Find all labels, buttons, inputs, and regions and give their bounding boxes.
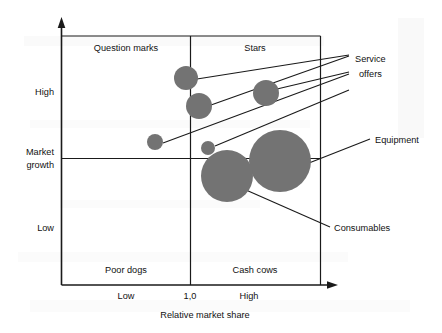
y-axis-title-line1: Market [26,147,55,157]
callout-label-service-offers-line2: offers [359,69,382,79]
y-tick-label-high: High [35,87,54,97]
bubble-equipment [249,130,311,192]
bubble-service-offer-5 [201,141,215,155]
bubble-consumables [201,150,253,202]
y-axis-title-line2: growth [26,160,54,170]
bcg-matrix-figure: Question marks Stars Poor dogs Cash cows… [0,0,442,333]
quadrant-label-cash-cows: Cash cows [233,265,278,275]
x-tick-label-high: High [240,291,259,301]
quadrant-label-stars: Stars [244,43,266,53]
bubble-service-offer-4 [147,134,163,150]
x-axis-title: Relative market share [160,310,249,320]
y-tick-label-low: Low [37,223,54,233]
quadrant-label-poor-dogs: Poor dogs [105,265,147,275]
x-tick-label-low: Low [118,291,135,301]
callout-label-equipment: Equipment [375,135,419,145]
x-tick-label-mid: 1,0 [184,291,197,301]
bubble-service-offer-2 [186,93,212,119]
bubble-service-offer-1 [174,66,198,90]
quadrant-label-question-marks: Question marks [94,43,159,53]
bubble-service-offer-3 [253,80,279,106]
bcg-matrix-svg: Question marks Stars Poor dogs Cash cows… [0,0,442,333]
callout-label-consumables: Consumables [334,223,391,233]
callout-label-service-offers-line1: Service [355,54,386,64]
